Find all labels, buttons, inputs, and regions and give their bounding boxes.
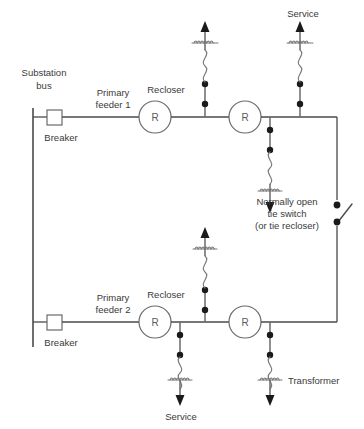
lateral-270b-service-arrow (266, 395, 275, 406)
feeder-2-lateral-180-down-service (168, 322, 192, 406)
lateral-205-service-arrow (201, 21, 210, 32)
primary-feeder-2-label-line2: feeder 2 (96, 304, 131, 315)
lateral-205b-transformer-coil (203, 256, 206, 288)
lateral-300-service-arrow (296, 21, 305, 32)
service-label-top: Service (287, 8, 319, 19)
recloser-4-letter: R (241, 317, 248, 328)
lateral-205-winding-marks (194, 41, 213, 43)
primary-feeder-1-group: R R (33, 101, 337, 133)
primary-feeder-2-label-line1: Primary (97, 292, 130, 303)
lateral-180-service-arrow (176, 395, 185, 406)
one-line-diagram-svg: R R (0, 0, 364, 429)
lateral-300-transformer-coil (298, 50, 301, 82)
lateral-300-winding-marks (289, 41, 308, 43)
recloser-2-label: Recloser (147, 289, 185, 300)
tie-switch-open-blade[interactable] (338, 204, 352, 222)
feeder-1-lateral-205-up (192, 21, 218, 117)
tie-connection (334, 117, 352, 322)
lateral-205-transformer-coil (203, 50, 206, 82)
tie-switch-label-line2: tie switch (267, 208, 306, 219)
lateral-205b-fuse-node-lower (202, 307, 208, 313)
tie-switch-label-line3: (or tie recloser) (255, 220, 319, 231)
feeder-2-lateral-270-down-transformer (258, 322, 282, 406)
transformer-label: Transformer (288, 375, 339, 386)
circuit-diagram: R R (0, 0, 364, 429)
recloser-3-letter: R (151, 317, 158, 328)
breaker-1-label: Breaker (44, 132, 77, 143)
feeder-2-lateral-205-up (193, 227, 217, 322)
lateral-270b-winding-marks (260, 378, 279, 380)
lateral-205-fuse-node-lower (202, 101, 208, 107)
substation-bus-label-line1: Substation (22, 67, 67, 78)
lateral-205b-service-arrow (201, 227, 210, 238)
primary-feeder-2-group: R R (33, 306, 337, 338)
lateral-180-winding-marks (170, 378, 189, 380)
breaker-1-symbol[interactable] (47, 110, 62, 125)
lateral-270a-transformer-coil (268, 152, 271, 184)
tie-switch-node-bottom (334, 219, 341, 226)
primary-feeder-1-label-line1: Primary (97, 87, 130, 98)
lateral-270a-fuse-node-upper (267, 127, 273, 133)
substation-bus-label-line2: bus (36, 80, 52, 91)
tie-switch-node-top (334, 202, 341, 209)
recloser-2-letter: R (241, 112, 248, 123)
recloser-1-letter: R (151, 112, 158, 123)
primary-feeder-1-label-line2: feeder 1 (96, 99, 131, 110)
tie-switch-label-line1: Normally open (256, 196, 317, 207)
lateral-180-fuse-node-upper (177, 332, 183, 338)
feeder-1-lateral-300-up-service (287, 21, 313, 117)
breaker-2-symbol[interactable] (47, 315, 62, 330)
lateral-300-fuse-node-lower (297, 101, 303, 107)
lateral-270b-fuse-node-upper (267, 332, 273, 338)
recloser-1-label: Recloser (147, 84, 185, 95)
breaker-2-label: Breaker (44, 337, 77, 348)
service-label-bottom: Service (165, 411, 197, 422)
